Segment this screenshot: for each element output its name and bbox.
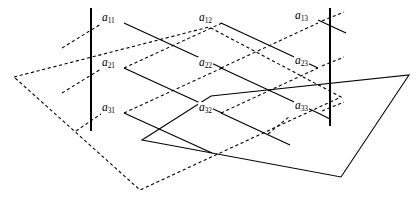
matrix-label-a22: a22 [198, 57, 213, 69]
matrix-label-a11: a11 [101, 12, 116, 24]
dashed-diagonal-enter-a21 [62, 69, 101, 93]
matrix-label-a31: a31 [101, 102, 116, 114]
matrix-label-a12: a12 [198, 12, 213, 24]
matrix-label-a21: a21 [101, 57, 116, 69]
solid-diagonal-a13-exit [318, 20, 346, 33]
matrix-label-a13: a13 [294, 10, 309, 22]
dashed-diagonal-group [62, 12, 344, 134]
solid-diagonal-a31-exit [124, 113, 212, 153]
dashed-diagonal-enter-a31 [76, 114, 101, 131]
matrix-label-a33: a33 [294, 100, 309, 112]
dashed-diagonal-exit-a23 [322, 57, 344, 66]
matrix-label-a23: a23 [294, 55, 309, 67]
solid-plane-polygon [142, 75, 409, 177]
dashed-plane-polygon [14, 27, 341, 190]
dashed-diagonal-exit-a33 [322, 102, 344, 111]
matrix-label-a32: a32 [198, 102, 213, 114]
dashed-diagonal-enter-a11 [62, 24, 101, 48]
solid-diagonal-a33-exit [318, 113, 330, 119]
dashed-diagonal-exit-a13 [322, 12, 344, 21]
solid-diagonal-a32-exit [221, 113, 290, 145]
dashed-diagonal-a33-tail [268, 116, 290, 134]
